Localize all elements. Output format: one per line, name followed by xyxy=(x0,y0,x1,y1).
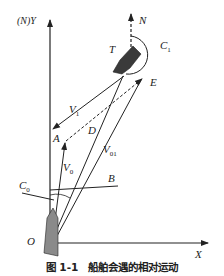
c1-label: C1 xyxy=(160,40,171,54)
point-b-label: B xyxy=(108,173,115,184)
target-ship-label: T xyxy=(109,44,115,55)
target-ship-t xyxy=(113,46,141,74)
north-label: N xyxy=(139,15,146,26)
c0-label: C0 xyxy=(19,180,30,194)
v01-label: V01 xyxy=(103,144,117,158)
point-e-label: E xyxy=(150,77,157,88)
own-ship-o xyxy=(44,208,58,256)
point-d-label: D xyxy=(88,125,96,136)
angle-arc xyxy=(50,194,70,198)
point-a-label: A xyxy=(53,133,60,144)
v0-label: V0 xyxy=(63,162,73,176)
y-axis-label: (N)Y xyxy=(17,16,36,26)
origin-label: O xyxy=(27,236,35,247)
v1-label: V1 xyxy=(69,104,79,118)
figure-caption: 图 1-1 船舶会遇的相对运动 xyxy=(0,259,224,274)
